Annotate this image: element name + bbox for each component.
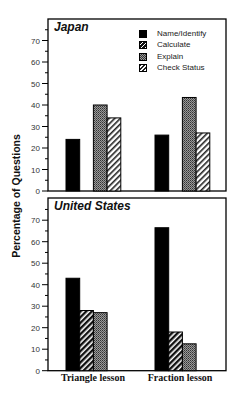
legend-item-explain: Explain: [139, 52, 206, 61]
bar-explain-triangle: [93, 105, 107, 191]
hatch-dark-swatch-icon: [139, 41, 147, 49]
y-tick-label: 30: [31, 302, 40, 311]
chart-panel-1: 010203040506070: [31, 198, 226, 376]
bar-name-identify-triangle: [66, 278, 80, 370]
bar-calculate-triangle: [80, 311, 94, 371]
y-tick-label: 20: [31, 324, 40, 333]
solid-swatch-icon: [139, 30, 147, 38]
y-tick-label: 50: [31, 80, 40, 89]
legend-label: Name/Identify: [157, 29, 206, 38]
y-tick-label: 60: [31, 58, 40, 67]
legend-item-name-identify: Name/Identify: [139, 29, 206, 38]
x-label-triangle: Triangle lesson: [61, 372, 125, 383]
bar-check-status-fraction: [196, 133, 210, 191]
y-tick-label: 10: [31, 345, 40, 354]
legend-label: Calculate: [157, 40, 190, 49]
us-panel-title: United States: [54, 199, 131, 213]
legend-label: Explain: [157, 52, 183, 61]
y-tick-label: 70: [31, 216, 40, 225]
legend: Name/Identify Calculate Explain Check St…: [139, 29, 206, 74]
legend-item-calculate: Calculate: [139, 40, 206, 49]
bar-calculate-fraction: [169, 332, 183, 371]
y-tick-label: 0: [36, 367, 41, 376]
y-tick-label: 30: [31, 123, 40, 132]
y-axis-label: Percentage of Questions: [10, 134, 22, 258]
y-tick-label: 0: [36, 187, 41, 196]
x-label-fraction: Fraction lesson: [148, 372, 213, 383]
bar-explain-fraction: [182, 344, 196, 371]
japan-panel-title: Japan: [54, 20, 89, 34]
y-tick-label: 70: [31, 37, 40, 46]
bar-name-identify-triangle: [66, 139, 80, 191]
bar-name-identify-fraction: [155, 135, 169, 191]
y-tick-label: 60: [31, 238, 40, 247]
legend-label: Check Status: [157, 63, 205, 72]
y-tick-label: 10: [31, 166, 40, 175]
hatch-light-swatch-icon: [139, 64, 147, 72]
y-tick-label: 20: [31, 144, 40, 153]
dots-swatch-icon: [139, 53, 147, 61]
y-tick-label: 40: [31, 281, 40, 290]
y-tick-label: 40: [31, 101, 40, 110]
bar-explain-fraction: [182, 97, 196, 191]
bar-name-identify-fraction: [155, 228, 169, 371]
bar-explain-triangle: [93, 313, 107, 371]
legend-item-check-status: Check Status: [139, 63, 206, 72]
y-tick-label: 50: [31, 259, 40, 268]
bar-check-status-triangle: [107, 118, 121, 191]
